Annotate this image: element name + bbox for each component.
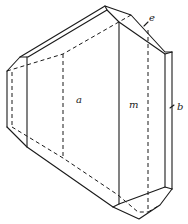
crystal-figure: a m b e [0,0,188,224]
hidden-edges [7,15,160,212]
face-label-m: m [129,99,138,110]
face-label-a: a [76,94,82,105]
face-label-b: b [177,101,183,112]
face-label-e: e [149,12,155,23]
crystal-drawing: a m b e [0,0,188,224]
visible-edges [7,6,174,219]
